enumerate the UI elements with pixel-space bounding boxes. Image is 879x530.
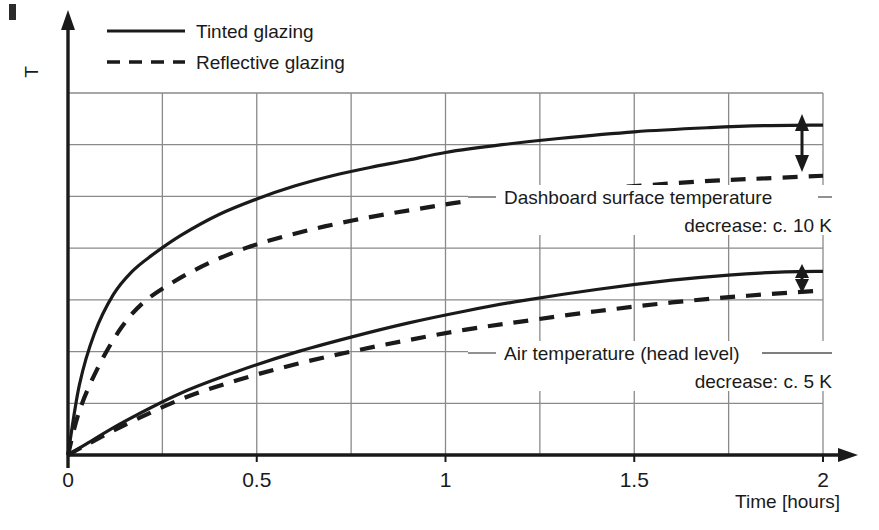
temperature-time-chart: T Time [hours] 00.511.52 Tinted glazing … xyxy=(0,0,879,530)
x-axis-title: Time [hours] xyxy=(735,491,840,512)
x-axis-tick-label: 1 xyxy=(440,468,452,491)
air-annotation-line1: Air temperature (head level) xyxy=(504,343,740,364)
legend-label-tinted-glazing: Tinted glazing xyxy=(196,21,314,42)
air-annotation-line2: decrease: c. 5 K xyxy=(695,371,833,392)
dashboard-annotation-line1: Dashboard surface temperature xyxy=(504,187,772,208)
x-axis-tick-label: 0.5 xyxy=(242,468,271,491)
x-axis-tick-label: 0 xyxy=(62,468,74,491)
chart-background xyxy=(0,0,879,530)
y-axis-title: T xyxy=(21,66,42,78)
page-corner-mark xyxy=(9,2,16,22)
x-axis-tick-label: 1.5 xyxy=(620,468,649,491)
chart-figure: T Time [hours] 00.511.52 Tinted glazing … xyxy=(0,0,879,530)
x-axis-tick-label: 2 xyxy=(817,468,829,491)
dashboard-annotation-line2: decrease: c. 10 K xyxy=(684,215,832,236)
legend-label-reflective-glazing: Reflective glazing xyxy=(196,52,345,73)
